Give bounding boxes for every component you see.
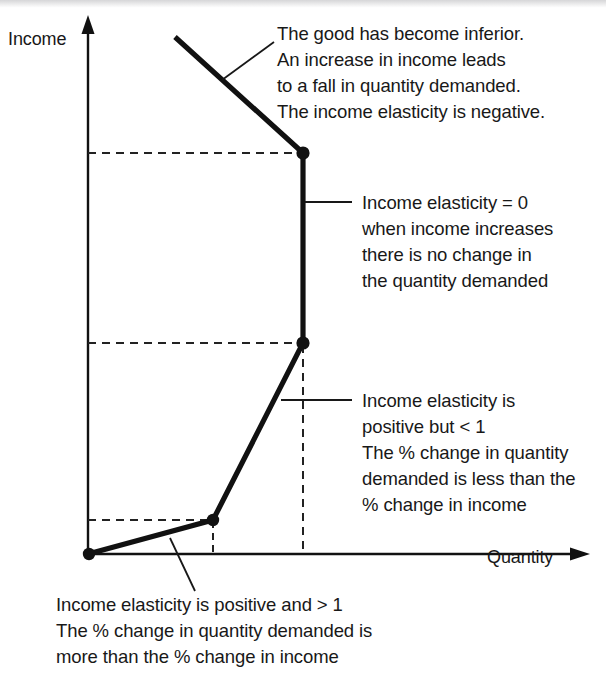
annotation-zero-elasticity-line-4: the quantity demanded [362, 268, 548, 294]
curve-point-kink-2 [296, 336, 309, 349]
x-axis-label: Quantity [487, 546, 553, 568]
annotation-positive-gt-one-line-2: The % change in quantity demanded is [56, 618, 372, 644]
leader-line-inferior [222, 42, 274, 80]
annotation-inferior-line-4: The income elasticity is negative. [277, 99, 545, 125]
annotation-positive-lt-one-line-5: % change in income [362, 492, 527, 518]
leader-line-positive-gt-one [170, 538, 195, 591]
annotation-positive-gt-one-line-1: Income elasticity is positive and > 1 [56, 592, 343, 618]
engel-curve-group [83, 37, 310, 560]
curve-point-kink-3 [296, 146, 309, 159]
annotation-positive-lt-one-line-1: Income elasticity is [362, 388, 515, 414]
annotation-positive-lt-one-line-2: positive but < 1 [362, 414, 485, 440]
annotation-inferior-line-3: to a fall in quantity demanded. [277, 73, 521, 99]
annotation-inferior-line-2: An increase in income leads [277, 47, 506, 73]
y-axis-arrowhead [82, 15, 95, 34]
guide-lines-group [88, 153, 303, 552]
annotation-zero-elasticity-line-3: there is no change in [362, 242, 532, 268]
engel-curve [88, 37, 303, 554]
annotation-positive-lt-one-line-3: The % change in quantity [362, 440, 568, 466]
annotation-zero-elasticity-line-1: Income elasticity = 0 [362, 190, 528, 216]
y-axis-label: Income [8, 28, 66, 50]
curve-point-origin [83, 548, 95, 560]
annotation-positive-gt-one-line-3: more than the % change in income [56, 644, 339, 670]
annotation-zero-elasticity-line-2: when income increases [362, 216, 553, 242]
annotation-inferior-line-1: The good has become inferior. [277, 21, 524, 47]
curve-point-kink-1 [207, 514, 219, 526]
annotation-positive-lt-one-line-4: demanded is less than the [362, 466, 575, 492]
x-axis-arrowhead [570, 548, 590, 561]
